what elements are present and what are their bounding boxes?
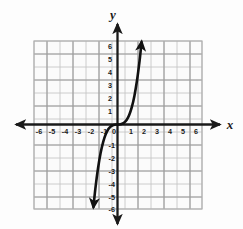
x-axis-label: x xyxy=(226,117,234,132)
x-tick-label: 1 xyxy=(129,127,133,136)
y-tick-label: 1 xyxy=(108,107,112,116)
x-tick-label: 4 xyxy=(168,127,172,136)
x-tick-label: -5 xyxy=(49,127,55,136)
coordinate-plane-svg: y x -6 -5 -4 -3 -2 -1 0 1 2 3 4 5 6 6 5 … xyxy=(0,0,243,229)
x-tick-label: -6 xyxy=(36,127,42,136)
y-tick-label: 3 xyxy=(108,81,112,90)
y-tick-label: 5 xyxy=(108,55,112,64)
x-tick-label: 3 xyxy=(155,127,159,136)
y-tick-label: -4 xyxy=(109,180,115,189)
y-tick-label: 4 xyxy=(108,68,112,77)
y-tick-label: -2 xyxy=(109,154,115,163)
y-axis-label: y xyxy=(108,7,116,22)
x-tick-label: 6 xyxy=(194,127,198,136)
x-tick-label: -2 xyxy=(88,127,94,136)
x-tick-label: 2 xyxy=(142,127,146,136)
x-tick-label: -4 xyxy=(62,127,68,136)
y-tick-label: -3 xyxy=(109,167,115,176)
x-tick-label: 5 xyxy=(181,127,185,136)
graph-figure: y x -6 -5 -4 -3 -2 -1 0 1 2 3 4 5 6 6 5 … xyxy=(0,0,243,229)
y-tick-label: 6 xyxy=(108,42,112,51)
x-tick-label: -3 xyxy=(75,127,81,136)
y-tick-label: -5 xyxy=(109,193,115,202)
y-tick-label: 2 xyxy=(108,94,112,103)
origin-label: 0 xyxy=(112,127,116,136)
y-tick-label: -1 xyxy=(109,141,115,150)
y-tick-label: -6 xyxy=(109,205,115,214)
